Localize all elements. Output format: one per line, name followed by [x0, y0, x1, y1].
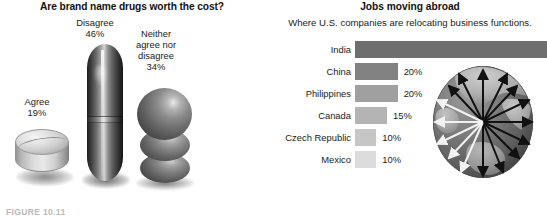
figure-container: Are brand name drugs worth the cost? Agr…: [0, 0, 547, 217]
pictograph-label-neither-line2: agree nor: [124, 39, 188, 50]
pictograph-label-neither: Neither agree nor disagree 34%: [124, 28, 188, 72]
bar-label-philippines: Philippines: [306, 88, 351, 99]
right-chart-panel: Jobs moving abroad Where U.S. companies …: [273, 0, 547, 217]
pictograph-label-disagree-text: Disagree: [62, 17, 128, 28]
pictograph-label-agree-text: Agree: [6, 96, 68, 107]
right-chart-subtitle: Where U.S. companies are relocating busi…: [273, 17, 547, 28]
stacked-spheres-icon: [134, 88, 196, 192]
bar-rect-canada: [355, 107, 387, 124]
bar-rect-philippines: [355, 85, 398, 102]
globe-with-radiating-arrows-icon: [429, 62, 537, 184]
bar-value-philippines: 20%: [404, 88, 423, 99]
bar-value-mexico: 10%: [382, 154, 401, 165]
right-chart-title: Jobs moving abroad: [273, 1, 547, 12]
globe-svg: [431, 64, 535, 180]
sphere-top: [137, 88, 192, 140]
pictograph-value-neither: 34%: [124, 61, 188, 72]
pictograph-value-disagree: 46%: [62, 28, 128, 39]
bar-label-czech-republic: Czech Republic: [285, 132, 351, 143]
pictograph-label-disagree: Disagree 46%: [62, 17, 128, 39]
bar-value-china: 20%: [404, 66, 423, 77]
left-chart-panel: Are brand name drugs worth the cost? Agr…: [0, 0, 273, 217]
figure-caption: FIGURE 10.11: [6, 207, 65, 217]
pictograph-value-agree: 19%: [6, 107, 68, 118]
round-tablet-icon: [12, 128, 74, 188]
bar-label-china: China: [327, 66, 352, 77]
bar-rect-czech-republic: [355, 129, 376, 146]
bar-value-czech-republic: 10%: [382, 132, 401, 143]
bar-rect-india: [355, 41, 547, 58]
capsule-pill-body: [87, 44, 123, 181]
capsule-pill-specular: [93, 64, 108, 86]
bar-row: India90%: [273, 40, 547, 62]
bar-rect-mexico: [355, 151, 376, 168]
bar-label-mexico: Mexico: [321, 154, 351, 165]
pictograph-label-neither-line3: disagree: [124, 50, 188, 61]
bar-value-canada: 15%: [393, 110, 412, 121]
pictograph-label-agree: Agree 19%: [6, 96, 68, 118]
capsule-pill-icon: [82, 44, 130, 192]
left-chart-title: Are brand name drugs worth the cost?: [0, 1, 264, 12]
pictograph-label-neither-line1: Neither: [124, 28, 188, 39]
bar-rect-china: [355, 63, 398, 80]
capsule-pill-seam: [87, 116, 123, 123]
bar-label-canada: Canada: [318, 110, 351, 121]
bar-label-india: India: [331, 44, 351, 55]
